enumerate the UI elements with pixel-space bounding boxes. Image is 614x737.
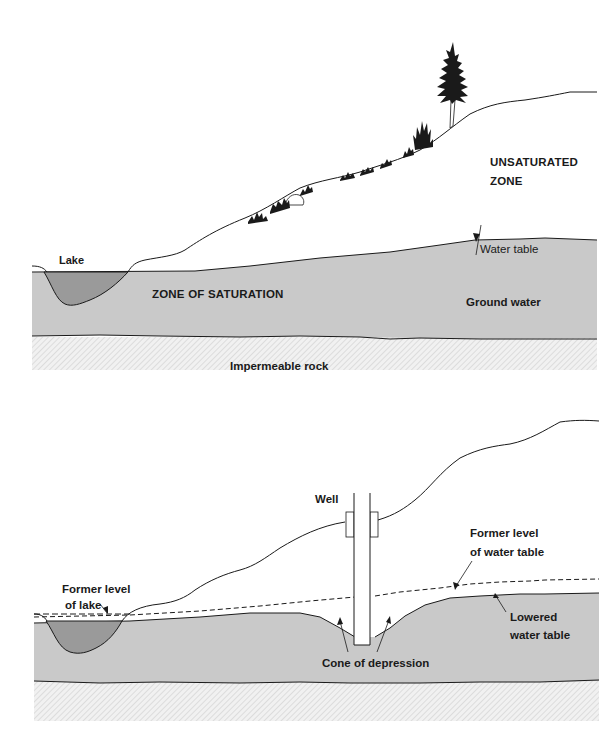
former-level-lake-label-line2: of lake bbox=[65, 599, 101, 611]
former-level-wt-label-line2: of water table bbox=[470, 546, 544, 558]
lake-label: Lake bbox=[59, 254, 84, 266]
former-level-wt-label: Former level bbox=[470, 527, 538, 539]
well-icon bbox=[346, 493, 378, 645]
vegetation-icon bbox=[248, 121, 433, 224]
cone-arrowhead-right-icon bbox=[386, 616, 391, 624]
former-level-wt-arrow-icon bbox=[456, 561, 472, 586]
unsaturated-zone-label-line2: ZONE bbox=[490, 175, 523, 187]
lowered-wt-label-line2: water table bbox=[509, 629, 570, 641]
bottom-panel: Well Former level of lake Former level o… bbox=[34, 420, 599, 721]
groundwater-diagram: UNSATURATED ZONE Water table Lake ZONE O… bbox=[0, 0, 614, 737]
unsaturated-zone-label: UNSATURATED bbox=[490, 156, 578, 168]
impermeable-rock-layer-bottom bbox=[34, 681, 599, 721]
former-level-lake-label: Former level bbox=[62, 583, 130, 595]
former-level-lake-arrowhead-icon bbox=[103, 606, 108, 614]
cone-of-depression-label: Cone of depression bbox=[322, 657, 429, 669]
well-label: Well bbox=[315, 493, 338, 505]
tree-icon bbox=[437, 42, 468, 128]
ground-water-label: Ground water bbox=[466, 296, 541, 308]
lowered-wt-label: Lowered bbox=[510, 611, 557, 623]
top-panel: UNSATURATED ZONE Water table Lake ZONE O… bbox=[32, 42, 597, 372]
water-table-label: Water table bbox=[480, 243, 538, 255]
cone-arrowhead-left-icon bbox=[337, 617, 343, 625]
impermeable-rock-label: Impermeable rock bbox=[230, 360, 329, 372]
zone-of-saturation-label: ZONE OF SATURATION bbox=[152, 288, 284, 300]
